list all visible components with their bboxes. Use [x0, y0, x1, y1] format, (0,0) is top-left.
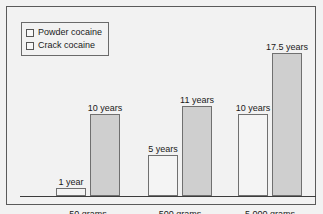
plot-area: 1 year10 years5 years11 years10 years17.…	[20, 17, 316, 197]
bar-powder-cocaine-2: 5 years	[148, 155, 178, 196]
bar-value-label: 11 years	[180, 95, 214, 105]
bar-value-label: 17.5 years	[266, 42, 308, 52]
bar-powder-cocaine-1: 1 year	[56, 188, 86, 196]
bar-powder-cocaine-3: 10 years	[238, 114, 268, 196]
bar-value-label: 1 year	[58, 177, 83, 187]
bar-value-label: 10 years	[88, 103, 123, 113]
chart-screenshot: Powder cocaine Crack cocaine 1 year10 ye…	[0, 0, 323, 214]
category-label-2: 500 grams	[159, 209, 202, 214]
chart-frame: Powder cocaine Crack cocaine 1 year10 ye…	[6, 6, 316, 205]
bar-crack-cocaine-3: 17.5 years	[272, 53, 302, 196]
bar-value-label: 5 years	[148, 144, 178, 154]
x-axis-baseline	[20, 196, 316, 197]
bar-crack-cocaine-1: 10 years	[90, 114, 120, 196]
bar-crack-cocaine-2: 11 years	[182, 106, 212, 196]
bar-value-label: 10 years	[236, 103, 271, 113]
category-label-3: 5,000 grams	[245, 209, 295, 214]
category-label-1: 50 grams	[69, 209, 107, 214]
